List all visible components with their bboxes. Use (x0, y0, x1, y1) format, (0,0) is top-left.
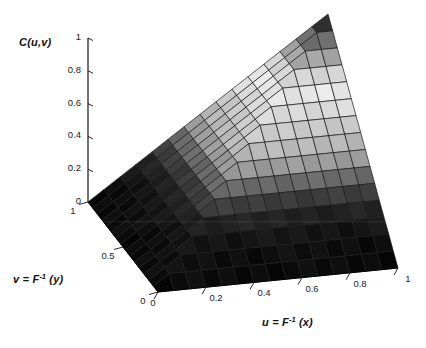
z-tick-label: 0.8 (68, 64, 81, 75)
scan-streak-artifact (90, 221, 400, 222)
copula-surface-figure: 10.80.60.40.2010.5000.20.40.60.81 C(u,v)… (0, 0, 426, 348)
v-tick-label: 1 (70, 205, 75, 216)
z-tick-label: 0.4 (68, 129, 81, 140)
u-axis-tick (346, 273, 350, 280)
v-axis-title: v = F-1 (y) (13, 272, 63, 285)
z-axis-tick (88, 169, 93, 172)
z-tick-label: 1 (76, 31, 81, 42)
z-tick-label: 0.6 (68, 97, 81, 108)
u-tick-label: 0.8 (353, 278, 366, 289)
u-tick-label: 0.2 (209, 292, 222, 303)
z-axis-title-text: C(u,v) (19, 36, 51, 48)
z-axis-tick (88, 104, 93, 107)
v-axis-title-prefix: v = F (13, 273, 39, 285)
z-axis-tick (88, 71, 93, 74)
u-axis-tick (202, 287, 206, 294)
u-axis-title-superscript: -1 (289, 315, 296, 324)
v-tick-label: 0 (140, 295, 145, 306)
v-axis-title-suffix: (y) (46, 273, 63, 285)
u-tick-label: 0.4 (257, 287, 270, 298)
u-axis-title-prefix: u = F (262, 316, 289, 328)
u-axis-tick (394, 268, 398, 275)
v-tick-label: 0.5 (101, 250, 114, 261)
u-tick-label: 0 (150, 297, 155, 308)
u-tick-label: 0.6 (305, 283, 318, 294)
z-axis-tick (88, 136, 93, 139)
u-axis-title: u = F-1 (x) (262, 315, 313, 328)
u-axis-tick (250, 282, 254, 289)
z-axis-tick (88, 38, 93, 41)
z-tick-label: 0.2 (68, 162, 81, 173)
u-tick-label: 1 (405, 273, 410, 284)
v-axis-tick (114, 247, 123, 250)
surface-plot-canvas: 10.80.60.40.2010.5000.20.40.60.81 (0, 0, 426, 348)
u-axis-title-suffix: (x) (296, 316, 313, 328)
z-axis-title: C(u,v) (19, 36, 51, 48)
u-axis-tick (298, 278, 302, 285)
surface-facet (312, 14, 333, 33)
surface-mesh (88, 14, 398, 292)
